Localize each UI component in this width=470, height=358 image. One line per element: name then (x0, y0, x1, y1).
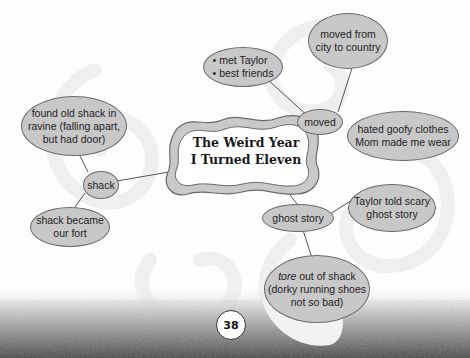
branch-label: ghost story (272, 212, 323, 225)
detail-hated-goofy-clothes: hated goofy clothes Mom made me wear (347, 111, 459, 161)
detail-line: moved from (316, 28, 381, 41)
branch-shack: shack (83, 171, 119, 199)
central-topic-line2: I Turned Eleven (186, 151, 306, 168)
detail-line: but had door) (28, 133, 120, 146)
page-number: 38 (216, 310, 246, 340)
branch-label: shack (87, 179, 114, 192)
detail-moved-city-to-country: moved from city to country (308, 13, 388, 69)
branch-moved: moved (297, 109, 343, 135)
detail-line: • best friends (213, 67, 274, 80)
detail-line: ravine (falling apart, (28, 120, 120, 133)
detail-found-old-shack: found old shack in ravine (falling apart… (21, 96, 127, 156)
detail-line: not so bad) (268, 296, 366, 309)
detail-tore-out-of-shack: tore out of shack (dorky running shoes n… (264, 255, 370, 323)
page-number-text: 38 (223, 319, 238, 332)
central-topic: The Weird Year I Turned Eleven (186, 134, 306, 168)
central-topic-line1: The Weird Year (186, 134, 306, 151)
book-page: The Weird Year I Turned Eleven • met Tay… (0, 0, 470, 358)
detail-line: ghost story (354, 208, 430, 221)
detail-line: • met Taylor (213, 54, 274, 67)
detail-line: our fort (36, 227, 104, 240)
detail-taylor-told-ghost-story: Taylor told scary ghost story (348, 184, 436, 232)
detail-line: found old shack in (28, 107, 120, 120)
detail-line: shack became (36, 214, 104, 227)
detail-line: tore out of shack (268, 270, 366, 283)
detail-met-taylor: • met Taylor • best friends (203, 47, 283, 87)
detail-text: out of shack (296, 270, 356, 282)
detail-line: hated goofy clothes (355, 123, 451, 136)
detail-line: Taylor told scary (354, 195, 430, 208)
emphasis-word: tore (278, 270, 296, 282)
detail-line: city to country (316, 41, 381, 54)
detail-line: Mom made me wear (355, 136, 451, 149)
detail-shack-became-fort: shack became our fort (30, 207, 110, 247)
branch-ghost-story: ghost story (262, 204, 334, 232)
branch-label: moved (304, 116, 336, 129)
detail-line: (dorky running shoes (268, 283, 366, 296)
